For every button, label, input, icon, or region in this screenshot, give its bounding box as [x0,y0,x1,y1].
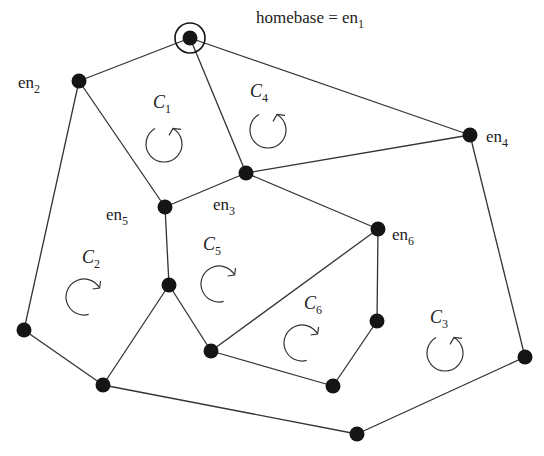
edge-en2-n8 [24,81,79,330]
cycle-label-c6: C6 [304,293,322,317]
labels: homebase = en1en2en3en4en5en6 [18,8,508,248]
node-en2 [72,74,87,89]
edge-n8-n9 [24,330,103,385]
cycle-arrow-ccw-icon [427,337,463,371]
node-n8 [17,323,32,338]
cycle-label-c3: C3 [430,307,448,331]
edge-en3-en5 [165,173,246,207]
node-n7 [162,278,177,293]
node-n12 [326,379,341,394]
cycle-label-c5: C5 [203,234,221,258]
cycle-label-c2: C2 [82,247,100,271]
edge-en4-n13 [470,135,525,357]
node-en5 [158,200,173,215]
cycle-label-c4: C4 [250,81,268,105]
node-en4 [463,128,478,143]
cycle-arrow-cw-icon [284,325,318,361]
cycle-label-c1: C1 [153,92,171,116]
edge-en1-en2 [79,38,190,81]
node-n10 [204,344,219,359]
edge-en1-en4 [190,38,470,135]
edge-en6-n11 [377,229,378,321]
cycle-arrow-ccw-icon [250,114,286,148]
cycle-arrow-ccw-icon [146,128,182,162]
node-n9 [96,378,111,393]
edge-en6-n10 [211,229,378,351]
node-n13 [518,350,533,365]
edges [24,38,525,434]
node-n11 [370,314,385,329]
cycle-arrow-cw-icon [201,266,235,302]
edge-en3-en6 [246,173,378,229]
node-n14 [350,427,365,442]
edge-n10-n12 [211,351,333,386]
node-en6 [371,222,386,237]
node-en3 [239,166,254,181]
edge-n11-n12 [333,321,377,386]
cycle-arrow-cw-icon [66,279,100,315]
node-label-en6: en6 [392,225,414,248]
node-label-en3: en3 [213,195,235,218]
network-diagram: homebase = en1en2en3en4en5en6 C1C2C3C4C5… [0,0,544,456]
node-label-en5: en5 [106,205,128,228]
homebase-label: homebase = en1 [256,8,364,31]
edge-n7-n9 [103,285,169,385]
node-label-en4: en4 [486,127,508,150]
edge-en5-n7 [165,207,169,285]
node-en1 [183,31,198,46]
edge-en1-en3 [190,38,246,173]
edge-en3-en4 [246,135,470,173]
edge-n9-n14 [103,385,357,434]
edge-n13-n14 [357,357,525,434]
node-label-en2: en2 [18,73,40,96]
